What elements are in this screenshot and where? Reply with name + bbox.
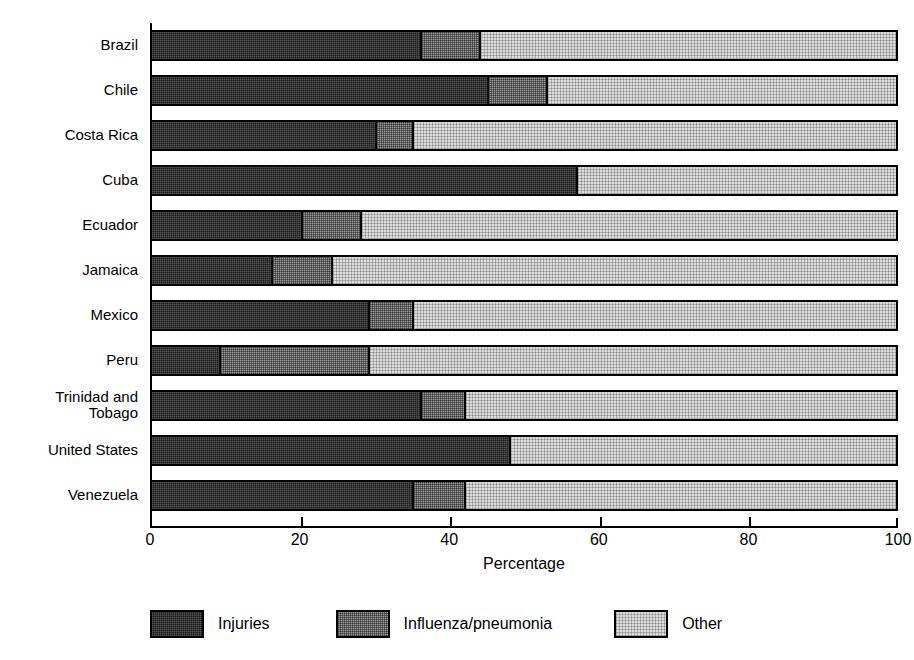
category-label: Cuba [0, 172, 138, 188]
bar-segment-other [412, 302, 896, 329]
category-label: Peru [0, 352, 138, 368]
legend-label-injuries: Injuries [218, 615, 270, 633]
category-label: Venezuela [0, 487, 138, 503]
bar-segment-influenza-pneumonia [420, 392, 465, 419]
bar-segment-other [464, 392, 896, 419]
injuries-swatch-icon [150, 610, 204, 638]
category-label: Brazil [0, 37, 138, 53]
bar-row [150, 255, 898, 286]
bar-row [150, 390, 898, 421]
bar-segment-injuries [152, 77, 487, 104]
bar-segment-injuries [152, 437, 509, 464]
x-axis-tick-label: 20 [291, 531, 309, 549]
category-label: Ecuador [0, 217, 138, 233]
bar-segment-injuries [152, 392, 420, 419]
bar-row [150, 75, 898, 106]
category-label: Costa Rica [0, 127, 138, 143]
other-swatch-icon [614, 610, 668, 638]
bar-segment-influenza-pneumonia [487, 77, 547, 104]
bar-segment-other [412, 122, 896, 149]
x-axis-tick-label: 80 [739, 531, 757, 549]
x-axis-tick-label: 40 [440, 531, 458, 549]
bar-segment-injuries [152, 212, 301, 239]
stacked-bar-chart: BrazilChileCosta RicaCubaEcuadorJamaicaM… [0, 0, 914, 660]
bar-row [150, 210, 898, 241]
x-axis-tick [450, 517, 452, 526]
bar-segment-influenza-pneumonia [219, 347, 368, 374]
bar-segment-injuries [152, 302, 368, 329]
bar-segment-other [464, 482, 896, 509]
category-label: Trinidad and Tobago [0, 389, 138, 421]
x-axis-tick [749, 517, 751, 526]
bar-row [150, 30, 898, 61]
category-label: Mexico [0, 307, 138, 323]
bar-row [150, 480, 898, 511]
category-label: Jamaica [0, 262, 138, 278]
bar-segment-other [331, 257, 896, 284]
bar-segment-influenza-pneumonia [368, 302, 413, 329]
legend-item-injuries: Injuries [150, 610, 270, 638]
x-axis-tick-label: 60 [590, 531, 608, 549]
bar-segment-injuries [152, 257, 271, 284]
legend-label-influenza: Influenza/pneumonia [404, 615, 553, 633]
bar-segment-injuries [152, 32, 420, 59]
bar-row [150, 165, 898, 196]
bar-segment-influenza-pneumonia [420, 32, 480, 59]
chart-legend: Injuries Influenza/pneumonia Other [150, 604, 850, 644]
bar-segment-injuries [152, 167, 576, 194]
influenza-swatch-icon [336, 610, 390, 638]
x-axis-tick-label: 0 [146, 531, 155, 549]
bar-segment-injuries [152, 482, 412, 509]
bar-row [150, 120, 898, 151]
bar-segment-influenza-pneumonia [412, 482, 464, 509]
bar-segment-injuries [152, 122, 375, 149]
x-axis-tick-label: 100 [885, 531, 912, 549]
plot-area [150, 23, 898, 518]
bar-segment-other [576, 167, 896, 194]
legend-item-other: Other [614, 610, 722, 638]
bar-segment-influenza-pneumonia [375, 122, 412, 149]
category-label: Chile [0, 82, 138, 98]
x-axis-tick [600, 517, 602, 526]
bar-row [150, 435, 898, 466]
legend-label-other: Other [682, 615, 722, 633]
bar-segment-influenza-pneumonia [271, 257, 331, 284]
x-axis-tick [301, 517, 303, 526]
bar-row [150, 345, 898, 376]
legend-item-influenza: Influenza/pneumonia [336, 610, 553, 638]
x-axis [150, 518, 898, 528]
bar-segment-other [360, 212, 896, 239]
bar-row [150, 300, 898, 331]
bar-segment-injuries [152, 347, 219, 374]
bar-segment-other [546, 77, 896, 104]
bar-segment-other [368, 347, 896, 374]
x-axis-title: Percentage [150, 555, 898, 573]
bar-segment-influenza-pneumonia [301, 212, 361, 239]
bar-segment-other [479, 32, 896, 59]
bar-segment-other [509, 437, 896, 464]
category-label: United States [0, 442, 138, 458]
